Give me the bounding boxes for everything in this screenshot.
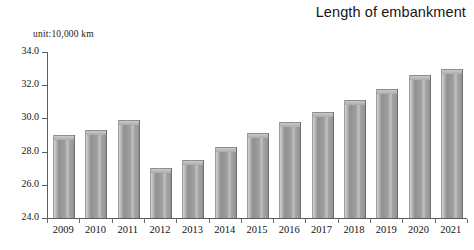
x-tick-mark: [273, 219, 274, 223]
y-tick-mark: [42, 152, 48, 153]
x-tick-mark: [435, 219, 436, 223]
bar: [409, 75, 431, 218]
bar: [85, 130, 107, 218]
y-tick-label: 34.0: [22, 45, 40, 57]
bar: [247, 133, 269, 218]
x-tick-mark: [338, 219, 339, 223]
y-tick-mark: [42, 185, 48, 186]
bar-chart: Length of embankment unit:10,000 km 34.0…: [0, 0, 474, 250]
y-axis-line: [47, 52, 48, 219]
bar: [441, 69, 463, 218]
x-tick-mark: [112, 219, 113, 223]
x-axis-line: [47, 218, 467, 219]
x-axis-label: 2021: [431, 224, 471, 236]
x-tick-mark: [144, 219, 145, 223]
bar: [215, 147, 237, 218]
x-tick-mark: [467, 219, 468, 223]
y-tick-mark: [42, 85, 48, 86]
chart-title: Length of embankment: [316, 4, 466, 20]
y-tick-mark: [42, 52, 48, 53]
x-tick-mark: [305, 219, 306, 223]
plot-area: 34.032.030.028.026.024.0: [47, 52, 467, 218]
unit-label: unit:10,000 km: [33, 29, 94, 39]
bar: [312, 112, 334, 218]
bar: [150, 168, 172, 218]
bar: [279, 122, 301, 218]
x-tick-mark: [79, 219, 80, 223]
y-tick-label: 30.0: [22, 111, 40, 123]
bar: [118, 120, 140, 218]
bar: [53, 135, 75, 218]
bar: [376, 89, 398, 218]
bar: [344, 100, 366, 218]
x-tick-mark: [370, 219, 371, 223]
y-tick-label: 32.0: [22, 78, 40, 90]
bar: [182, 160, 204, 218]
y-tick-mark: [42, 118, 48, 119]
x-tick-mark: [176, 219, 177, 223]
x-tick-mark: [241, 219, 242, 223]
x-tick-mark: [402, 219, 403, 223]
y-tick-label: 26.0: [22, 178, 40, 190]
x-tick-mark: [47, 219, 48, 223]
y-tick-label: 24.0: [22, 211, 40, 223]
y-tick-label: 28.0: [22, 145, 40, 157]
x-tick-mark: [209, 219, 210, 223]
